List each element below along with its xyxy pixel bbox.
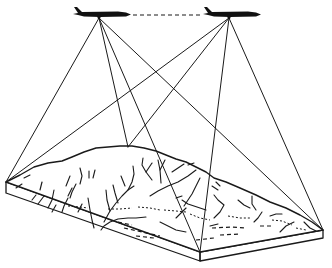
sight-line-right-to-ridge (128, 18, 229, 147)
terrain-block (6, 146, 323, 261)
stereo-aerial-photo-diagram (0, 0, 332, 268)
sight-line-left-to-ridge (99, 18, 128, 147)
aircraft-left-icon (73, 7, 131, 19)
aircraft-right-icon (203, 7, 261, 19)
